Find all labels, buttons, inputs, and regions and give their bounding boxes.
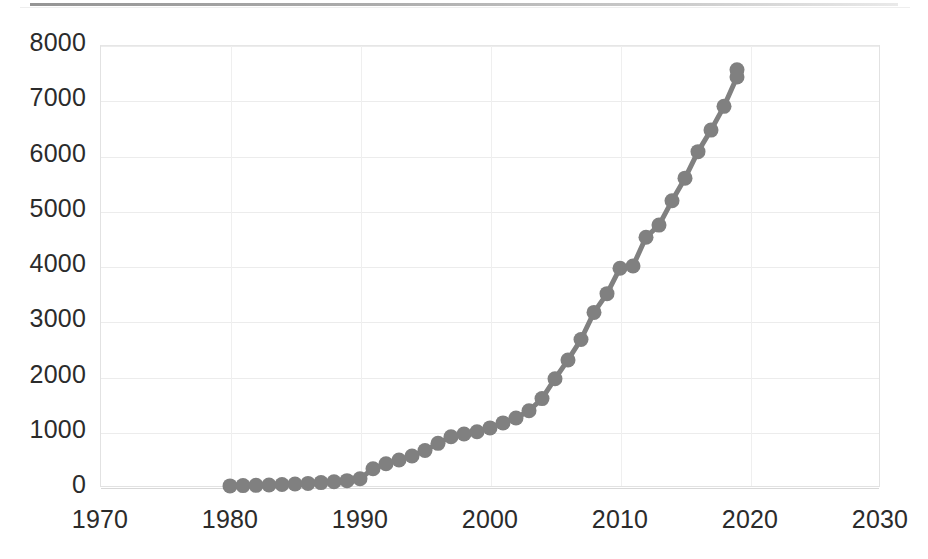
y-tick-label: 2000 [0, 360, 86, 389]
plot-area [100, 45, 880, 487]
gridline-horizontal [101, 157, 879, 158]
y-tick-label: 7000 [0, 83, 86, 112]
gridline-vertical [361, 46, 362, 486]
scan-artifact-line-secondary [20, 7, 910, 8]
chart-figure: 010002000300040005000600070008000 197019… [0, 0, 928, 559]
gridline-vertical [231, 46, 232, 486]
scan-artifact-line [30, 3, 898, 6]
x-tick-label: 1990 [332, 505, 388, 534]
y-tick-label: 3000 [0, 304, 86, 333]
gridline-vertical [751, 46, 752, 486]
gridline-horizontal [101, 46, 879, 47]
y-tick-label: 8000 [0, 28, 86, 57]
x-tick-label: 2000 [462, 505, 518, 534]
x-tick-label: 2020 [722, 505, 778, 534]
y-tick-label: 1000 [0, 415, 86, 444]
y-tick-label: 0 [0, 470, 86, 499]
gridline-horizontal [101, 101, 879, 102]
gridline-vertical [621, 46, 622, 486]
gridline-horizontal [101, 322, 879, 323]
y-tick-label: 6000 [0, 139, 86, 168]
gridline-horizontal [101, 378, 879, 379]
x-tick-label: 2010 [592, 505, 648, 534]
y-tick-label: 4000 [0, 249, 86, 278]
x-tick-label: 2030 [852, 505, 908, 534]
y-tick-label: 5000 [0, 194, 86, 223]
gridline-horizontal [101, 433, 879, 434]
x-tick-label: 1980 [202, 505, 258, 534]
x-tick-label: 1970 [72, 505, 128, 534]
gridline-horizontal [101, 212, 879, 213]
x-axis-baseline [101, 488, 879, 489]
gridline-vertical [491, 46, 492, 486]
gridline-horizontal [101, 267, 879, 268]
